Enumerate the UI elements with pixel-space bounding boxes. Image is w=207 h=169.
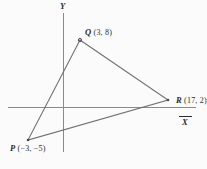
- vertex-name-p: P: [10, 143, 15, 153]
- vertex-name-r: R: [176, 95, 182, 105]
- vertex-coords-p: (−3, −5): [18, 144, 46, 153]
- vertex-label-q: Q (3, 8): [85, 28, 112, 37]
- vertex-marker-p: [27, 139, 30, 142]
- vertex-marker-r: [167, 99, 170, 102]
- y-axis-label: Y: [60, 2, 65, 11]
- vertex-label-p: P (−3, −5): [10, 144, 46, 153]
- vertex-label-r: R (17, 2): [176, 96, 207, 105]
- triangle-pqr: [28, 40, 168, 140]
- vertex-coords-q: (3, 8): [94, 28, 113, 37]
- vertex-name-q: Q: [85, 27, 91, 37]
- x-axis-label: X: [182, 118, 188, 127]
- vertex-coords-r: (17, 2): [184, 96, 207, 105]
- coordinate-plane-figure: Q (3, 8) R (17, 2) P (−3, −5) Y X: [0, 0, 207, 169]
